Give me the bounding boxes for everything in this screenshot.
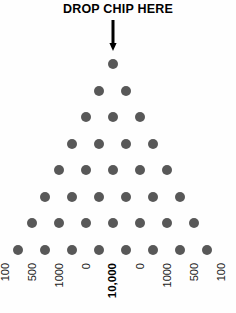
peg-row <box>0 165 236 176</box>
peg <box>94 245 104 255</box>
peg <box>148 245 158 255</box>
peg-row <box>0 59 236 70</box>
peg <box>162 165 172 175</box>
peg <box>121 86 131 96</box>
peg-row <box>0 139 236 150</box>
peg <box>121 139 131 149</box>
peg <box>135 218 145 228</box>
peg-row <box>0 218 236 229</box>
prize-slot: 100 <box>211 263 231 313</box>
peg <box>67 139 77 149</box>
peg <box>135 112 145 122</box>
peg-row <box>0 86 236 97</box>
prize-label: 500 <box>26 263 37 281</box>
peg <box>27 218 37 228</box>
peg-row <box>0 112 236 123</box>
peg <box>108 218 118 228</box>
peg <box>202 245 212 255</box>
peg <box>13 245 23 255</box>
prize-slot: 500 <box>22 263 42 313</box>
prize-slot: 0 <box>76 263 96 313</box>
prize-slot: 1000 <box>49 263 69 313</box>
prize-label: 0 <box>80 263 91 269</box>
prize-slot: 500 <box>184 263 204 313</box>
peg <box>67 192 77 202</box>
prize-label: 100 <box>215 263 226 281</box>
prize-slot: 1000 <box>157 263 177 313</box>
plinko-board: DROP CHIP HERE 1005001000010,00001000500… <box>0 0 236 313</box>
peg <box>67 245 77 255</box>
peg <box>54 165 64 175</box>
peg <box>162 218 172 228</box>
prize-label: 500 <box>188 263 199 281</box>
peg <box>40 245 50 255</box>
peg <box>108 112 118 122</box>
peg <box>108 59 118 69</box>
prize-label: 100 <box>0 263 10 281</box>
peg <box>94 86 104 96</box>
peg-row <box>0 192 236 203</box>
peg <box>94 192 104 202</box>
peg <box>135 165 145 175</box>
peg <box>81 112 91 122</box>
peg-row <box>0 245 236 256</box>
peg <box>121 245 131 255</box>
peg <box>121 192 131 202</box>
peg <box>94 139 104 149</box>
prize-label: 1000 <box>161 263 172 287</box>
prize-label-jackpot: 10,000 <box>107 263 119 298</box>
peg <box>40 192 50 202</box>
prize-slot: 10,000 <box>103 263 123 313</box>
peg <box>81 218 91 228</box>
peg <box>148 192 158 202</box>
peg <box>189 218 199 228</box>
peg-grid <box>0 0 236 270</box>
peg <box>148 139 158 149</box>
peg <box>175 192 185 202</box>
prize-label: 0 <box>134 263 145 269</box>
peg <box>54 218 64 228</box>
prize-label: 1000 <box>53 263 64 287</box>
prize-slot: 0 <box>130 263 150 313</box>
peg <box>175 245 185 255</box>
prize-slot: 100 <box>0 263 15 313</box>
prize-label-row: 1005001000010,00001000500100 <box>0 263 236 313</box>
peg <box>81 165 91 175</box>
peg <box>108 165 118 175</box>
